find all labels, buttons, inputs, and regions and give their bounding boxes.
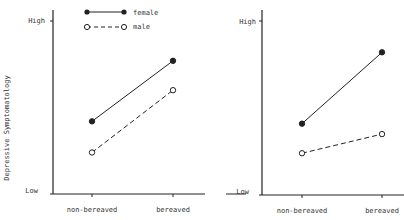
y-tick-label-high: High <box>28 17 45 25</box>
legend-male-marker <box>84 24 89 29</box>
legend-male-marker <box>121 24 126 29</box>
y-tick-label-low: Low <box>236 188 249 196</box>
data-point-male-non-bereaved <box>89 150 94 155</box>
y-tick-label-high: High <box>239 18 256 26</box>
data-point-male-non-bereaved <box>299 151 304 156</box>
left-panel: High Low non-bereaved bereaved Depressiv… <box>3 9 205 214</box>
left-marks <box>89 58 175 155</box>
data-point-female-bereaved <box>170 58 175 63</box>
data-point-male-bereaved <box>379 131 384 136</box>
y-tick-label-low: Low <box>25 187 38 195</box>
data-point-male-bereaved <box>170 88 175 93</box>
x-tick-label-bereaved: bereaved <box>156 206 190 214</box>
series-line-female <box>302 52 382 123</box>
legend-female-marker <box>84 9 89 14</box>
series-line-female <box>92 61 173 122</box>
data-point-female-non-bereaved <box>299 121 304 126</box>
x-tick-label-bereaved: bereaved <box>365 207 399 215</box>
data-point-female-bereaved <box>379 50 384 55</box>
legend-female-label: female <box>133 9 158 17</box>
series-line-male <box>302 134 382 153</box>
series-line-male <box>92 90 173 152</box>
right-panel: High Low non-bereaved bereaved <box>226 10 404 215</box>
x-tick-label-non-bereaved: non-bereaved <box>67 206 118 214</box>
x-tick-label-non-bereaved: non-bereaved <box>277 207 328 215</box>
legend-female-marker <box>121 9 126 14</box>
right-marks <box>299 50 384 156</box>
legend: female male <box>84 9 158 31</box>
data-point-female-non-bereaved <box>89 119 94 124</box>
figure: High Low non-bereaved bereaved Depressiv… <box>0 0 404 220</box>
legend-male-label: male <box>133 23 150 31</box>
y-axis-title: Depressive Symptomatology <box>3 75 11 180</box>
